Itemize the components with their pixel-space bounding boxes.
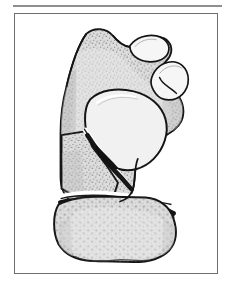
distal-inner-shading — [63, 207, 170, 260]
distal-left-shadow — [59, 218, 73, 260]
posterior-articular-facet — [130, 35, 169, 61]
bone-fracture-illustration — [15, 14, 217, 273]
horizontal-rule — [13, 5, 222, 7]
wedge-shadow — [62, 149, 85, 195]
figure-page: Bone fracture anatomical illustration — [0, 0, 225, 293]
figure-frame: Bone fracture anatomical illustration — [14, 13, 218, 274]
